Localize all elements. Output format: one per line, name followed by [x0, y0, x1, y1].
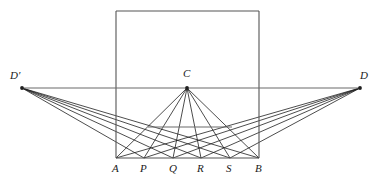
point-label-d: D: [360, 70, 368, 81]
fan-line-d-0: [116, 88, 360, 158]
fan-line-d_prime-2: [22, 88, 201, 158]
point-label-a: A: [112, 163, 119, 174]
vertex-marker-c: [185, 86, 189, 90]
vertex-marker-d-prime: [20, 86, 24, 90]
point-label-q: Q: [169, 163, 177, 174]
vertex-marker-d: [358, 86, 362, 90]
frame-group: [22, 11, 360, 158]
fan-line-d-2: [173, 88, 360, 158]
point-label-s: S: [226, 163, 232, 174]
fan-lines-group: [22, 88, 360, 158]
point-label-c: C: [183, 68, 190, 79]
point-label-p: P: [140, 163, 147, 174]
geometry-diagram: D′ D C A P Q R S B: [0, 0, 376, 184]
fan-line-d_prime-1: [22, 88, 173, 158]
point-label-d-prime: D′: [10, 70, 20, 81]
point-label-b: B: [255, 163, 262, 174]
fan-line-d-3: [201, 88, 360, 158]
point-label-r: R: [197, 163, 204, 174]
geometry-canvas: [0, 0, 376, 184]
fan-line-d-4: [230, 88, 360, 158]
